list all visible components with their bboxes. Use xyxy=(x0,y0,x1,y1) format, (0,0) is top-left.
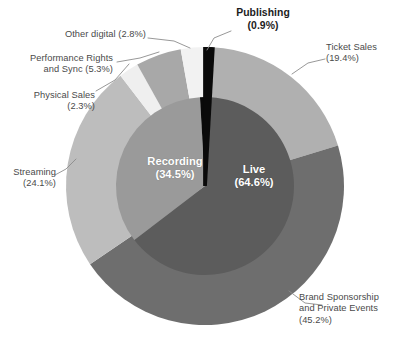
pie-chart-figure: Publishing (0.9%) Ticket Sales (19.4%) B… xyxy=(0,0,397,357)
label-streaming: Streaming (24.1%) xyxy=(0,167,56,190)
label-ticket-sales: Ticket Sales (19.4%) xyxy=(326,42,396,65)
label-other-digital: Other digital (2.8%) xyxy=(10,29,146,40)
label-recording: Recording (34.5%) xyxy=(132,155,218,182)
label-live: Live (64.6%) xyxy=(221,163,287,190)
leader-line-ticket-sales xyxy=(292,59,325,74)
label-physical-sales: Physical Sales (2.3%) xyxy=(0,90,95,113)
label-publishing: Publishing (0.9%) xyxy=(218,7,308,32)
label-brand-sponsorship: Brand Sponsorship and Private Events (45… xyxy=(299,292,397,326)
label-performance-rights: Performance Rights and Sync (5.3%) xyxy=(0,53,113,76)
leader-line-other-digital xyxy=(148,38,190,48)
